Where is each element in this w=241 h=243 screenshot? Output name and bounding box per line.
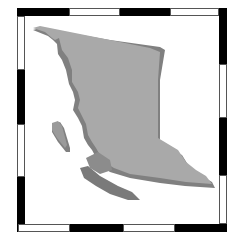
province-map (0, 0, 241, 243)
